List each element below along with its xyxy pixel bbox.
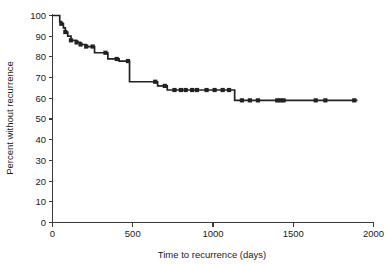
y-tick-label: 0 xyxy=(41,217,46,228)
y-tick-label: 20 xyxy=(35,176,46,187)
censor-mark xyxy=(190,88,194,92)
x-axis-tick-marks xyxy=(53,223,374,227)
censor-mark xyxy=(59,22,63,26)
censor-mark xyxy=(172,88,176,92)
censor-mark xyxy=(221,88,225,92)
y-tick-label: 30 xyxy=(35,155,46,166)
censor-mark xyxy=(78,42,82,46)
kaplan-meier-figure: 0102030405060708090100 0500100015002000 … xyxy=(0,0,387,265)
censor-mark xyxy=(84,44,88,48)
y-tick-label: 60 xyxy=(35,93,46,104)
censor-mark xyxy=(163,84,167,88)
censoring-marks xyxy=(59,22,356,103)
x-axis-tick-labels: 0500100015002000 xyxy=(50,228,384,239)
censor-mark xyxy=(126,59,130,63)
censor-mark xyxy=(103,51,107,55)
censor-mark xyxy=(240,98,244,102)
censor-mark xyxy=(179,88,183,92)
censor-mark xyxy=(213,88,217,92)
x-axis-title: Time to recurrence (days) xyxy=(158,249,266,260)
censor-mark xyxy=(69,38,73,42)
x-tick-label: 500 xyxy=(125,228,141,239)
x-tick-label: 0 xyxy=(50,228,55,239)
y-axis-tick-labels: 0102030405060708090100 xyxy=(30,10,46,228)
y-tick-label: 50 xyxy=(35,113,46,124)
survival-step-curve xyxy=(53,16,358,101)
x-tick-label: 2000 xyxy=(363,228,384,239)
y-tick-label: 40 xyxy=(35,134,46,145)
y-tick-label: 90 xyxy=(35,31,46,42)
y-tick-label: 70 xyxy=(35,72,46,83)
y-axis-title: Percent without recurrence xyxy=(4,61,15,175)
censor-mark xyxy=(323,98,327,102)
censor-mark xyxy=(115,57,119,61)
censor-mark xyxy=(195,88,199,92)
censor-mark xyxy=(153,80,157,84)
y-tick-label: 10 xyxy=(35,196,46,207)
censor-mark xyxy=(204,88,208,92)
censor-mark xyxy=(248,98,252,102)
censor-mark xyxy=(63,30,67,34)
censor-mark xyxy=(91,44,95,48)
censor-mark xyxy=(256,98,260,102)
censor-mark xyxy=(314,98,318,102)
survival-curve-plot: 0102030405060708090100 0500100015002000 … xyxy=(0,0,387,265)
x-tick-label: 1500 xyxy=(283,228,304,239)
censor-mark xyxy=(352,98,356,102)
censor-mark xyxy=(184,88,188,92)
y-tick-label: 100 xyxy=(30,10,46,21)
x-tick-label: 1000 xyxy=(202,228,223,239)
censor-mark xyxy=(74,40,78,44)
y-tick-label: 80 xyxy=(35,51,46,62)
censor-mark xyxy=(227,88,231,92)
censor-mark xyxy=(282,98,286,102)
